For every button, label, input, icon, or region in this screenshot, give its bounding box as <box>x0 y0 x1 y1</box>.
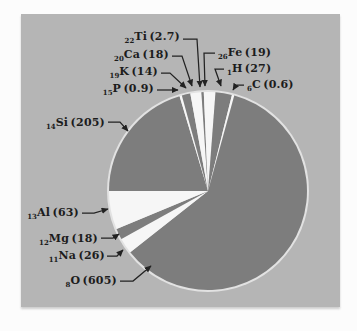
pie-chart-svg <box>0 0 357 331</box>
leader-k <box>161 73 186 88</box>
leader-ca <box>172 56 192 86</box>
leader-ti <box>183 39 200 87</box>
pie-slices-group <box>109 92 307 290</box>
leader-si <box>108 122 128 131</box>
figure-page: 14Si (205)15P (0.9)19K (14)20Ca (18)22Ti… <box>0 0 357 331</box>
leader-na <box>107 250 123 256</box>
leader-fe <box>204 53 215 86</box>
leader-c <box>233 85 244 90</box>
leader-mg <box>101 234 119 238</box>
leader-al <box>82 209 108 213</box>
leader-h <box>215 69 224 86</box>
